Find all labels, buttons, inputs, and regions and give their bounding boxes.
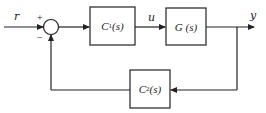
block-c1-name: C (101, 20, 108, 32)
input-signal-label: r (14, 11, 19, 22)
block-diagram: r + − u y C1(s) G (s) C2(s) (0, 0, 266, 113)
block-c1-arg: (s) (112, 20, 124, 32)
block-g-name: G (175, 21, 183, 33)
minus-sign: − (37, 33, 43, 43)
block-g-arg: (s) (183, 21, 197, 33)
plant-g-block: G (s) (166, 8, 206, 45)
controller-c1-block: C1(s) (90, 7, 135, 45)
plus-sign: + (37, 13, 43, 23)
block-c2-arg: (s) (150, 83, 162, 95)
output-signal-label: y (250, 10, 256, 21)
block-c2-name: C (139, 83, 146, 95)
control-signal-label: u (148, 12, 155, 23)
controller-c2-block: C2(s) (130, 70, 170, 108)
